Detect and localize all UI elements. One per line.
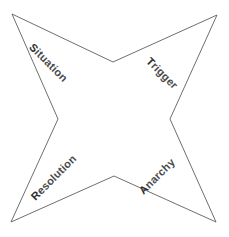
star-outline-polygon [11, 14, 217, 222]
four-point-star-shape [0, 0, 229, 237]
star-diagram: Situation Trigger Resolution Anarchy [0, 0, 229, 237]
